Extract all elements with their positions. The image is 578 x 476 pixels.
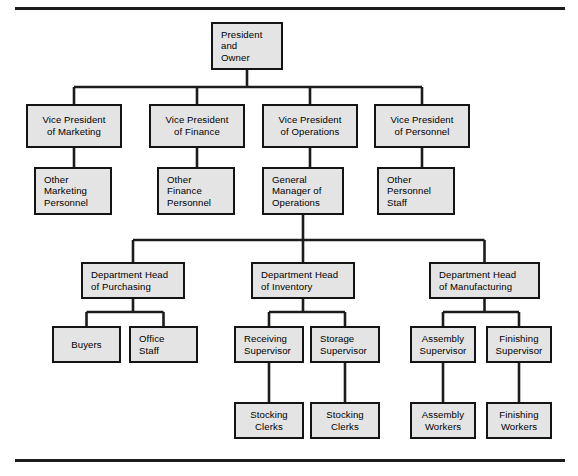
org-node-label-line: Workers [501, 421, 537, 433]
org-node-label-line: Supervisor [320, 345, 367, 357]
org-node-finishing-sup[interactable]: FinishingSupervisor [486, 326, 552, 363]
org-node-president[interactable]: PresidentandOwner [211, 22, 283, 70]
org-node-label-line: President [221, 29, 262, 41]
org-node-label-line: Staff [139, 345, 159, 357]
org-node-label-line: Office [139, 333, 164, 345]
org-node-label-line: Owner [221, 52, 250, 64]
org-node-label-line: Finance [167, 185, 202, 197]
org-node-label-line: and [221, 40, 237, 52]
org-node-stocking-clerks-2[interactable]: StockingClerks [310, 402, 380, 439]
org-node-assembly-sup[interactable]: AssemblySupervisor [410, 326, 476, 363]
org-node-label-line: Department Head [261, 269, 338, 281]
org-node-label-line: Other [44, 174, 69, 186]
org-node-label-line: of Inventory [261, 281, 312, 293]
org-node-label-line: Clerks [331, 421, 359, 433]
org-node-finishing-workers[interactable]: FinishingWorkers [486, 402, 552, 439]
org-node-label-line: of Marketing [47, 126, 101, 138]
org-node-label-line: Department Head [91, 269, 168, 281]
org-node-label-line: Vice President [42, 114, 105, 126]
org-node-label-line: Personnel [387, 185, 431, 197]
org-node-dh-inventory[interactable]: Department Headof Inventory [251, 262, 355, 299]
org-node-assembly-workers[interactable]: AssemblyWorkers [410, 402, 476, 439]
org-node-label-line: of Operations [281, 126, 340, 138]
org-node-dh-manufacturing[interactable]: Department Headof Manufacturing [429, 262, 540, 299]
org-node-other-finance[interactable]: OtherFinancePersonnel [157, 167, 235, 215]
org-node-label-line: Workers [425, 421, 461, 433]
org-node-storage-sup[interactable]: StorageSupervisor [310, 326, 380, 363]
org-node-label-line: Other [167, 174, 192, 186]
org-node-dh-purchasing[interactable]: Department Headof Purchasing [81, 262, 185, 299]
org-node-vp-finance[interactable]: Vice Presidentof Finance [149, 104, 245, 148]
org-node-vp-operations[interactable]: Vice Presidentof Operations [262, 104, 358, 148]
org-chart-page: PresidentandOwnerVice Presidentof Market… [0, 0, 578, 476]
org-node-label-line: Supervisor [244, 345, 291, 357]
org-node-label-line: General [272, 174, 307, 186]
org-node-label-line: Manager of [272, 185, 322, 197]
org-node-buyers[interactable]: Buyers [52, 326, 121, 363]
org-node-label-line: of Purchasing [91, 281, 151, 293]
org-node-label-line: Buyers [71, 339, 101, 351]
org-node-label-line: Clerks [255, 421, 283, 433]
org-node-label-line: Vice President [278, 114, 341, 126]
org-node-label-line: Personnel [44, 197, 88, 209]
org-node-label-line: Personnel [167, 197, 211, 209]
org-node-receiving-sup[interactable]: ReceivingSupervisor [234, 326, 304, 363]
org-node-office-staff[interactable]: OfficeStaff [129, 326, 198, 363]
org-node-label-line: Operations [272, 197, 320, 209]
org-node-label-line: Supervisor [420, 345, 467, 357]
org-node-label-line: Department Head [439, 269, 516, 281]
org-node-other-personnel[interactable]: OtherPersonnelStaff [377, 167, 455, 215]
org-node-label-line: of Manufacturing [439, 281, 512, 293]
org-node-label-line: Vice President [165, 114, 228, 126]
org-node-gm-operations[interactable]: GeneralManager ofOperations [262, 167, 344, 215]
org-node-label-line: Assembly [422, 409, 464, 421]
org-node-label-line: Other [387, 174, 412, 186]
org-node-label-line: Marketing [44, 185, 87, 197]
org-node-stocking-clerks-1[interactable]: StockingClerks [234, 402, 304, 439]
org-node-label-line: Receiving [244, 333, 287, 345]
org-node-other-marketing[interactable]: OtherMarketingPersonnel [34, 167, 112, 215]
org-node-label-line: Assembly [422, 333, 464, 345]
org-node-label-line: Storage [320, 333, 354, 345]
org-node-label-line: Stocking [326, 409, 364, 421]
org-node-vp-personnel[interactable]: Vice Presidentof Personnel [374, 104, 470, 148]
org-node-label-line: Staff [387, 197, 407, 209]
org-node-label-line: Stocking [250, 409, 288, 421]
org-node-label-line: of Finance [174, 126, 220, 138]
bottom-rule [15, 459, 565, 462]
org-node-label-line: Vice President [390, 114, 453, 126]
org-node-label-line: of Personnel [394, 126, 449, 138]
org-node-label-line: Finishing [499, 333, 538, 345]
org-node-label-line: Supervisor [496, 345, 543, 357]
org-node-vp-marketing[interactable]: Vice Presidentof Marketing [26, 104, 122, 148]
org-node-label-line: Finishing [499, 409, 538, 421]
